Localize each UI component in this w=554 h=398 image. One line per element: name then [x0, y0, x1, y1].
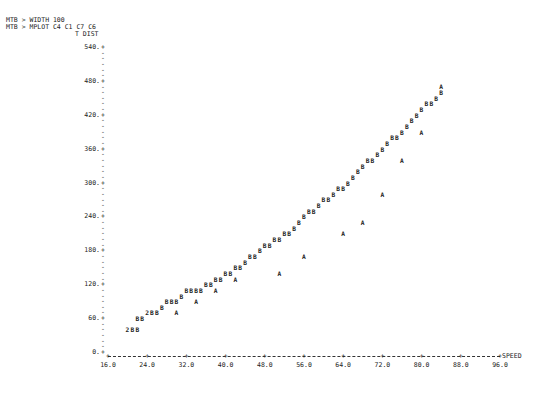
- x-tick-major: +: [497, 353, 503, 360]
- data-point-B: B: [165, 298, 169, 305]
- data-point-A: A: [420, 129, 424, 136]
- x-tick-label: 88.0: [446, 362, 476, 369]
- data-point-B: B: [380, 146, 384, 153]
- data-point-B: B: [258, 247, 262, 254]
- data-point-B: B: [219, 276, 223, 283]
- x-tick-major: +: [301, 353, 307, 360]
- y-tick-label: 120.: [60, 281, 100, 288]
- y-axis-label: T DIST: [75, 31, 98, 38]
- data-point-A: A: [361, 219, 365, 226]
- x-tick-label: 16.0: [93, 362, 123, 369]
- y-tick-label: 240.: [60, 213, 100, 220]
- data-point-A: A: [233, 276, 237, 283]
- data-point-B: B: [180, 293, 184, 300]
- data-point-B: B: [385, 140, 389, 147]
- data-point-B: B: [405, 123, 409, 130]
- data-point-B: B: [131, 326, 135, 333]
- x-tick-label: 72.0: [367, 362, 397, 369]
- data-point-B: B: [214, 276, 218, 283]
- data-point-B: B: [140, 315, 144, 322]
- data-point-B: B: [194, 287, 198, 294]
- x-tick-label: 56.0: [289, 362, 319, 369]
- data-point-B: B: [204, 281, 208, 288]
- data-point-A: A: [278, 270, 282, 277]
- data-point-A: A: [194, 298, 198, 305]
- data-point-B: B: [346, 180, 350, 187]
- x-tick-label: 24.0: [132, 362, 162, 369]
- data-point-B: B: [263, 242, 267, 249]
- data-point-B: B: [429, 100, 433, 107]
- data-point-B: B: [317, 202, 321, 209]
- x-tick-major: +: [262, 353, 268, 360]
- data-point-A: A: [380, 191, 384, 198]
- x-tick-major: +: [223, 353, 229, 360]
- data-point-B: B: [155, 309, 159, 316]
- data-point-B: B: [351, 174, 355, 181]
- x-axis-label: SPEED: [502, 353, 522, 360]
- data-point-B: B: [302, 213, 306, 220]
- data-point-B: B: [184, 287, 188, 294]
- data-point-B: B: [282, 230, 286, 237]
- data-point-B: B: [248, 253, 252, 260]
- data-point-B: B: [356, 168, 360, 175]
- data-point-B: B: [268, 242, 272, 249]
- data-point-B: B: [135, 315, 139, 322]
- data-point-A: A: [302, 253, 306, 260]
- x-tick-major: +: [340, 353, 346, 360]
- x-tick-label: 96.0: [485, 362, 515, 369]
- y-tick-label: 420.: [60, 112, 100, 119]
- data-point-B: B: [420, 106, 424, 113]
- x-tick-label: 40.0: [211, 362, 241, 369]
- data-point-B: B: [390, 134, 394, 141]
- data-point-B: B: [322, 196, 326, 203]
- data-point-B: B: [376, 151, 380, 158]
- data-point-B: B: [150, 309, 154, 316]
- data-point-A: A: [175, 309, 179, 316]
- data-point-B: B: [243, 259, 247, 266]
- data-point-B: B: [341, 185, 345, 192]
- data-point-B: B: [170, 298, 174, 305]
- y-tick-label: 540.: [60, 44, 100, 51]
- y-tick-major: +: [100, 44, 106, 51]
- data-point-B: B: [160, 304, 164, 311]
- data-point-B: B: [400, 129, 404, 136]
- data-point-B: B: [229, 270, 233, 277]
- data-point-B: B: [327, 196, 331, 203]
- data-point-B: B: [224, 270, 228, 277]
- data-point-B: B: [273, 236, 277, 243]
- data-point-B: B: [434, 95, 438, 102]
- data-point-B: B: [287, 230, 291, 237]
- data-point-B: B: [209, 281, 213, 288]
- data-point-A: A: [400, 157, 404, 164]
- y-tick-label: 300.: [60, 180, 100, 187]
- data-point-B: B: [233, 264, 237, 271]
- data-point-B: B: [253, 253, 257, 260]
- data-point-B: B: [238, 264, 242, 271]
- x-tick-label: 48.0: [250, 362, 280, 369]
- data-point-B: B: [371, 157, 375, 164]
- x-tick-label: 80.0: [407, 362, 437, 369]
- data-point-B: B: [415, 112, 419, 119]
- data-point-B: B: [366, 157, 370, 164]
- data-point-B: B: [189, 287, 193, 294]
- data-point-B: B: [439, 89, 443, 96]
- data-point-A: A: [214, 287, 218, 294]
- data-point-B: B: [199, 287, 203, 294]
- y-tick-label: 180.: [60, 247, 100, 254]
- data-point-B: B: [336, 185, 340, 192]
- y-tick-label: 0.: [60, 349, 100, 356]
- data-point-2: 2: [126, 326, 130, 333]
- x-tick-major: +: [458, 353, 464, 360]
- data-point-B: B: [425, 100, 429, 107]
- x-tick-major: +: [183, 353, 189, 360]
- y-tick-label: 360.: [60, 146, 100, 153]
- x-tick-major: +: [105, 353, 111, 360]
- data-point-B: B: [410, 117, 414, 124]
- data-point-B: B: [292, 225, 296, 232]
- x-tick-label: 64.0: [328, 362, 358, 369]
- x-tick-major: +: [379, 353, 385, 360]
- data-point-B: B: [307, 208, 311, 215]
- data-point-B: B: [312, 208, 316, 215]
- data-point-A: A: [341, 230, 345, 237]
- data-point-B: B: [175, 298, 179, 305]
